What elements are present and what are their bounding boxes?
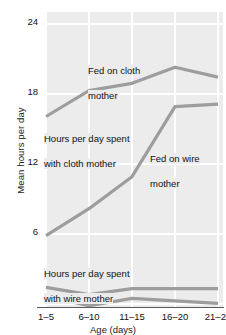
y-axis-title: Mean hours per day bbox=[15, 81, 26, 221]
x-tick-label-11-15: 11–15 bbox=[110, 311, 154, 322]
x-tick-label-6-10: 6–10 bbox=[67, 311, 111, 322]
y-tick-label-18: 18 bbox=[8, 86, 38, 97]
annotation-fed-on-wire-mother-line2: mother bbox=[150, 178, 180, 189]
x-tick-label-1-5: 1–5 bbox=[24, 311, 68, 322]
annotation-fed-on-wire-mother: Fed on wire mother bbox=[150, 140, 200, 190]
x-axis-title: Age (days) bbox=[0, 324, 226, 335]
annotation-hours-with-wire-mother: Hours per day spent with wire mother bbox=[44, 255, 130, 305]
annotation-hours-with-wire-mother-line2: with wire mother bbox=[44, 293, 113, 304]
annotation-fed-on-cloth-mother-line1: Fed on cloth bbox=[88, 65, 140, 76]
annotation-hours-with-cloth-mother-line1: Hours per day spent bbox=[44, 133, 130, 144]
annotation-fed-on-wire-mother-line1: Fed on wire bbox=[150, 153, 200, 164]
x-tick-label-16-20: 16–20 bbox=[153, 311, 197, 322]
y-tick-label-24: 24 bbox=[8, 16, 38, 27]
annotation-fed-on-cloth-mother: Fed on cloth mother bbox=[88, 52, 140, 102]
line-chart: Mean hours per day 24 18 12 6 1–5 6–10 1… bbox=[0, 0, 226, 335]
annotation-hours-with-wire-mother-line1: Hours per day spent bbox=[44, 268, 130, 279]
x-tick-label-21-25: 21–25 bbox=[196, 311, 226, 322]
annotation-hours-with-cloth-mother-line2: with cloth mother bbox=[44, 158, 116, 169]
annotation-hours-with-cloth-mother: Hours per day spent with cloth mother bbox=[44, 120, 130, 170]
x-axis-line bbox=[37, 307, 224, 308]
annotation-fed-on-cloth-mother-line2: mother bbox=[88, 90, 118, 101]
y-tick-label-12: 12 bbox=[8, 156, 38, 167]
y-tick-label-6: 6 bbox=[8, 226, 38, 237]
